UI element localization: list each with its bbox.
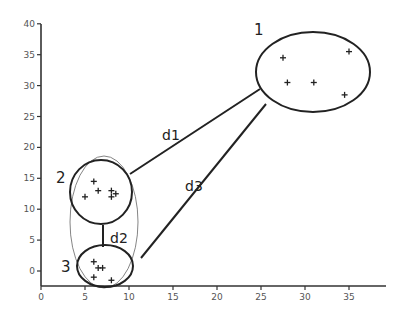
plus-marker-icon xyxy=(82,194,88,200)
plus-marker-icon xyxy=(91,178,97,184)
y-tick-label: 40 xyxy=(24,19,36,29)
x-tick-label: 30 xyxy=(299,292,311,302)
plus-marker-icon xyxy=(91,274,97,280)
plus-marker-icon xyxy=(342,92,348,98)
y-tick-label: 35 xyxy=(24,50,35,60)
plus-marker-icon xyxy=(108,194,114,200)
cluster-1-ellipse xyxy=(256,32,370,112)
plus-marker-icon xyxy=(108,277,114,283)
cluster-2-label: 2 xyxy=(56,169,66,187)
x-tick-label: 25 xyxy=(255,292,266,302)
plus-marker-icon xyxy=(284,80,290,86)
cluster-3-ellipse xyxy=(77,245,133,287)
y-tick-label: 5 xyxy=(29,235,35,245)
x-tick-label: 35 xyxy=(343,292,354,302)
x-axis: 05101520253035 xyxy=(38,286,386,302)
distance-label-d1: d1 xyxy=(162,127,180,143)
plus-marker-icon xyxy=(91,259,97,265)
y-axis: 0510152025303540 xyxy=(24,19,41,286)
plus-marker-icon xyxy=(311,80,317,86)
plus-marker-icon xyxy=(100,265,106,271)
y-tick-label: 30 xyxy=(24,81,36,91)
cluster-1-label: 1 xyxy=(254,21,264,39)
y-tick-label: 0 xyxy=(29,266,35,276)
distance-label-d2: d2 xyxy=(110,230,128,246)
cluster-2-ellipse xyxy=(70,160,132,224)
cluster-3-label: 3 xyxy=(61,258,71,276)
x-tick-label: 20 xyxy=(211,292,223,302)
y-tick-label: 10 xyxy=(24,204,36,214)
plus-marker-icon xyxy=(113,191,119,197)
x-tick-label: 0 xyxy=(38,292,44,302)
plus-marker-icon xyxy=(108,188,114,194)
y-tick-label: 15 xyxy=(24,173,35,183)
y-tick-label: 20 xyxy=(24,142,36,152)
plus-marker-icon xyxy=(280,55,286,61)
plus-marker-icon xyxy=(95,188,101,194)
cluster-distance-diagram: 0510152025303540 05101520253035 1 2 3 d1… xyxy=(0,0,408,322)
plus-marker-icon xyxy=(346,49,352,55)
x-tick-label: 10 xyxy=(123,292,135,302)
distance-label-d3: d3 xyxy=(185,178,203,194)
x-tick-label: 5 xyxy=(82,292,88,302)
y-tick-label: 25 xyxy=(24,112,35,122)
distance-line-d1 xyxy=(130,89,260,174)
x-tick-label: 15 xyxy=(167,292,178,302)
